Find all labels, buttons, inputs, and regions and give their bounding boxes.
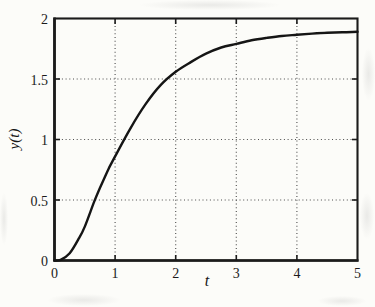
y-tick-label: 1 xyxy=(41,133,48,148)
y-tick-label: 2 xyxy=(41,12,48,27)
y-tick-label: 1.5 xyxy=(31,73,49,88)
x-tick-label: 1 xyxy=(112,266,119,281)
x-tick-label: 3 xyxy=(233,266,240,281)
response-curve xyxy=(55,32,358,261)
plot-svg: 01234500.511.52 xyxy=(0,0,375,307)
y-tick-label: 0 xyxy=(41,254,48,269)
x-axis-label: t xyxy=(195,272,219,290)
x-tick-label: 0 xyxy=(51,266,58,281)
y-tick-label: 0.5 xyxy=(31,194,49,209)
y-axis-label: y(t) xyxy=(5,117,23,161)
x-tick-label: 5 xyxy=(354,266,361,281)
x-tick-label: 2 xyxy=(172,266,179,281)
x-tick-label: 4 xyxy=(293,266,300,281)
scanned-figure: 01234500.511.52 y(t) t xyxy=(0,0,375,307)
